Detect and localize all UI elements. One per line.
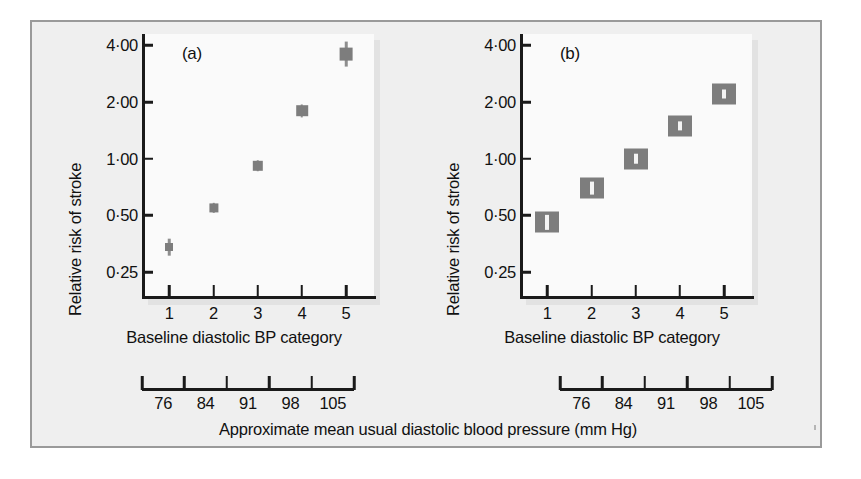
panel-b-x-axis-label: Baseline diastolic BP category xyxy=(432,328,792,347)
x-axis-tick xyxy=(723,285,726,297)
y-axis-tick xyxy=(142,44,153,47)
x-axis-tick xyxy=(590,285,593,297)
y-axis-tick xyxy=(142,271,153,274)
panel-a: Relative risk of stroke 4·002·001·000·50… xyxy=(54,30,414,350)
x-axis-tick xyxy=(212,285,215,297)
panel-a-ytick-labels: 4·002·001·000·500·25 xyxy=(82,30,138,310)
y-axis-tick-label: 0·50 xyxy=(106,206,138,225)
marker-box xyxy=(296,105,308,117)
x-axis-tick-label: 4 xyxy=(297,304,306,323)
x-axis-tick-label: 2 xyxy=(587,304,596,323)
mmhg-tick xyxy=(559,376,562,390)
x-axis-tick-label: 4 xyxy=(675,304,684,323)
mmhg-rule-b xyxy=(560,388,772,391)
mmhg-tick xyxy=(644,376,647,390)
mmhg-tick xyxy=(728,376,731,390)
panel-b-ytick-labels: 4·002·001·000·500·25 xyxy=(460,30,516,310)
marker-box xyxy=(340,48,353,61)
x-axis-tick-label: 1 xyxy=(165,304,174,323)
figure-caption: Approximate mean usual diastolic blood p… xyxy=(32,420,824,439)
y-axis-tick-label: 4·00 xyxy=(106,36,138,55)
mmhg-tick xyxy=(268,376,271,390)
mmhg-tick-label: 98 xyxy=(282,394,300,413)
y-axis-tick-label: 0·25 xyxy=(484,263,516,282)
figure-frame: Relative risk of stroke 4·002·001·000·50… xyxy=(30,20,822,448)
x-axis-tick xyxy=(635,285,638,297)
y-axis-tick xyxy=(142,158,153,161)
panel-b-tag: (b) xyxy=(560,44,580,64)
panel-a-y-axis-line xyxy=(142,34,145,299)
mmhg-scale-a: 76849198105 xyxy=(142,374,354,418)
mmhg-tick-label: 105 xyxy=(319,394,346,413)
panel-a-plot-area xyxy=(142,34,374,299)
x-axis-tick-label: 2 xyxy=(209,304,218,323)
mmhg-scale-b: 76849198105 xyxy=(560,374,772,418)
marker-box xyxy=(253,160,263,170)
marker-box xyxy=(165,243,173,251)
mmhg-tick-label: 91 xyxy=(657,394,675,413)
mmhg-tick xyxy=(183,376,186,390)
y-axis-tick-label: 4·00 xyxy=(484,36,516,55)
mmhg-tick xyxy=(353,376,356,390)
x-axis-tick-label: 1 xyxy=(543,304,552,323)
y-axis-tick xyxy=(142,101,153,104)
mmhg-tick-label: 91 xyxy=(239,394,257,413)
panel-b-y-axis-line xyxy=(520,34,523,299)
y-axis-tick-label: 2·00 xyxy=(484,93,516,112)
y-axis-tick-label: 2·00 xyxy=(106,93,138,112)
y-axis-tick xyxy=(520,271,531,274)
x-axis-tick xyxy=(546,285,549,297)
panel-a-x-axis-label: Baseline diastolic BP category xyxy=(54,328,414,347)
mmhg-tick xyxy=(601,376,604,390)
confidence-interval-bar xyxy=(545,215,549,229)
mmhg-tick-label: 76 xyxy=(572,394,590,413)
y-axis-tick-label: 0·25 xyxy=(106,263,138,282)
x-axis-tick-label: 3 xyxy=(253,304,262,323)
y-axis-tick xyxy=(142,214,153,217)
confidence-interval-bar xyxy=(722,90,726,99)
panel-b: Relative risk of stroke 4·002·001·000·50… xyxy=(432,30,792,350)
marker-box xyxy=(209,203,218,212)
x-axis-tick-label: 3 xyxy=(631,304,640,323)
confidence-interval-bar xyxy=(590,182,594,195)
mmhg-tick xyxy=(226,376,229,390)
mmhg-tick-label: 105 xyxy=(737,394,764,413)
mmhg-tick xyxy=(310,376,313,390)
mmhg-tick-label: 84 xyxy=(615,394,633,413)
mmhg-tick-label: 84 xyxy=(197,394,215,413)
y-axis-tick xyxy=(520,101,531,104)
x-axis-tick-label: 5 xyxy=(720,304,729,323)
x-axis-tick xyxy=(679,285,682,297)
confidence-interval-bar xyxy=(678,121,682,130)
mmhg-tick-label: 76 xyxy=(154,394,172,413)
x-axis-tick xyxy=(257,285,260,297)
y-axis-tick-label: 1·00 xyxy=(484,149,516,168)
panel-a-tag: (a) xyxy=(182,44,202,64)
confidence-interval-bar xyxy=(634,153,638,164)
mmhg-tick xyxy=(686,376,689,390)
y-axis-tick-label: 0·50 xyxy=(484,206,516,225)
mmhg-tick xyxy=(771,376,774,390)
mmhg-tick-label: 98 xyxy=(700,394,718,413)
y-axis-tick-label: 1·00 xyxy=(106,149,138,168)
mmhg-rule-a xyxy=(142,388,354,391)
y-axis-tick xyxy=(520,158,531,161)
x-axis-tick xyxy=(345,285,348,297)
x-axis-tick-label: 5 xyxy=(342,304,351,323)
x-axis-tick xyxy=(301,285,304,297)
scan-speck xyxy=(814,425,816,430)
panel-b-plot-area xyxy=(520,34,752,299)
x-axis-tick xyxy=(168,285,171,297)
y-axis-tick xyxy=(520,44,531,47)
mmhg-tick xyxy=(141,376,144,390)
y-axis-tick xyxy=(520,214,531,217)
